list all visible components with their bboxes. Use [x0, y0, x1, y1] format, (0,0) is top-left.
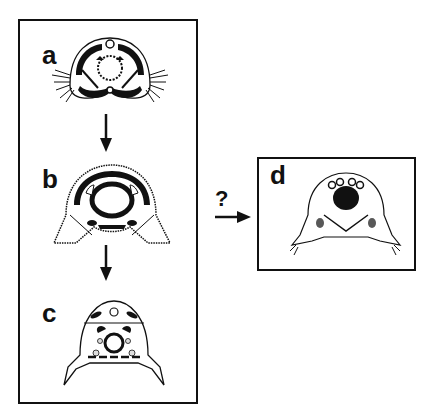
arrow-a-to-b-icon	[98, 114, 114, 154]
cross-section-d-illustration	[280, 165, 410, 265]
arrow-to-d-icon	[215, 210, 251, 224]
question-mark: ?	[215, 188, 228, 210]
cross-section-a-illustration	[30, 30, 190, 115]
arrow-b-to-c-icon	[98, 245, 114, 285]
cross-section-b-illustration	[30, 155, 190, 250]
cross-section-c-illustration	[30, 285, 190, 390]
